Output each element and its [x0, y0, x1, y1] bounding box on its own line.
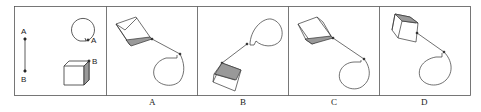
puzzle-diagram: A B A B A B C [0, 0, 481, 112]
option-d-label: D [421, 97, 428, 107]
option-b-figure [213, 19, 282, 91]
ref-line-label-b: B [21, 75, 26, 84]
option-c-figure [298, 17, 369, 89]
option-d-figure [392, 14, 451, 85]
ref-line-label-a: A [21, 27, 27, 36]
option-b-label: B [240, 97, 246, 107]
option-a-label: A [149, 97, 156, 107]
ref-cube-label: B [92, 57, 97, 66]
option-c-label: C [331, 97, 337, 107]
ref-circle-label: A [91, 36, 97, 45]
option-a-figure [116, 17, 184, 85]
reference-panel [24, 18, 95, 85]
